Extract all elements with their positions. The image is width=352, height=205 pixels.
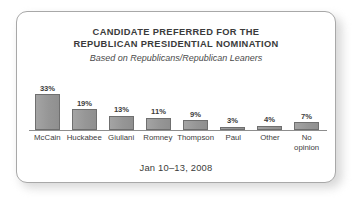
bar-value-label: 9% — [190, 111, 201, 119]
bar-group-giuliani: 13% — [103, 74, 140, 130]
bar-rect — [72, 109, 97, 130]
chart-plot-area: 33% 19% 13% 11% 9% — [29, 74, 325, 130]
category-label-romney: Romney — [139, 133, 176, 152]
survey-date-caption: Jan 10–13, 2008 — [17, 162, 335, 173]
chart-title-line-1: CANDIDATE PREFERRED FOR THE — [17, 26, 335, 38]
bar-value-label: 4% — [264, 116, 275, 124]
chart-title-block: CANDIDATE PREFERRED FOR THE REPUBLICAN P… — [17, 26, 335, 65]
bar-value-label: 13% — [114, 106, 129, 114]
category-label-paul: Paul — [215, 133, 252, 152]
category-label-thompson: Thompson — [176, 133, 215, 152]
bar-group-no-opinion: 7% — [288, 74, 325, 130]
bar-value-label: 3% — [227, 117, 238, 125]
bar-series: 33% 19% 13% 11% 9% — [29, 74, 325, 130]
chart-title-line-2: REPUBLICAN PRESIDENTIAL NOMINATION — [17, 38, 335, 50]
bar-group-thompson: 9% — [177, 74, 214, 130]
chart-card: CANDIDATE PREFERRED FOR THE REPUBLICAN P… — [16, 11, 336, 183]
category-label-giuliani: Giuliani — [103, 133, 140, 152]
chart-screenshot: CANDIDATE PREFERRED FOR THE REPUBLICAN P… — [0, 0, 352, 205]
category-axis-labels: McCain Huckabee Giuliani Romney Thompson… — [29, 133, 325, 152]
bar-rect — [109, 116, 134, 131]
bar-rect — [183, 120, 208, 130]
category-label-other: Other — [252, 133, 289, 152]
chart-subtitle: Based on Republicans/Republican Leaners — [17, 52, 335, 65]
bar-group-paul: 3% — [214, 74, 251, 130]
bar-value-label: 11% — [151, 108, 166, 116]
bar-group-romney: 11% — [140, 74, 177, 130]
bar-rect — [35, 94, 60, 130]
bar-value-label: 33% — [40, 85, 55, 93]
bar-group-huckabee: 19% — [66, 74, 103, 130]
bar-value-label: 7% — [301, 113, 312, 121]
bar-value-label: 19% — [77, 100, 92, 108]
x-axis-line — [29, 130, 327, 131]
category-label-mccain: McCain — [29, 133, 66, 152]
bar-rect — [294, 122, 319, 130]
category-label-huckabee: Huckabee — [66, 133, 103, 152]
category-label-no-opinion: No opinion — [288, 133, 325, 152]
bar-group-mccain: 33% — [29, 74, 66, 130]
bar-group-other: 4% — [251, 74, 288, 130]
bar-rect — [146, 118, 171, 130]
